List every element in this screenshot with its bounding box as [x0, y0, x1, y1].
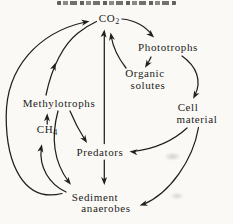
arrowhead: [80, 135, 89, 145]
node-predators: Predators: [77, 146, 124, 158]
arrow-cell-material-to-predators: [129, 128, 187, 155]
arrow-methylotrophs-to-co2: [46, 22, 97, 96]
node-organic-solutes-line2: solutes: [131, 79, 166, 91]
node-cell-material-line2: material: [177, 113, 218, 125]
arrow-methylotrophs-to-predators: [70, 111, 90, 145]
co2-subscript: 2: [115, 17, 119, 26]
arrowhead: [81, 18, 90, 25]
node-sediment-anaerobes-line2: anaerobes: [81, 202, 130, 214]
arrow-sediment-anaerobes-to-ch4: [37, 144, 66, 192]
arrow-cell-material-to-sediment-anaerobes: [139, 128, 199, 209]
arrow-co2-to-phototrophs: [122, 19, 156, 40]
ch4-subscript: 4: [53, 128, 57, 137]
scanned-diagram-page: CO2 Phototrophs Organic solutes Cell mat…: [0, 0, 233, 224]
node-ch4: CH4: [37, 123, 57, 139]
arrowhead: [50, 61, 59, 71]
arrowhead: [190, 90, 199, 100]
node-organic-solutes-line1: Organic: [125, 67, 164, 79]
arrowhead: [129, 149, 137, 156]
arrow-organic-solutes-to-co2: [108, 32, 126, 68]
arrow-phototrophs-to-cell-material: [182, 56, 200, 100]
arrowhead: [139, 200, 148, 208]
node-cell-material-line1: Cell: [178, 101, 199, 113]
node-phototrophs: Phototrophs: [138, 41, 198, 53]
arrow-predators-to-co2: [101, 29, 108, 143]
arrowhead: [146, 30, 156, 40]
arrowhead: [64, 177, 74, 187]
node-co2: CO2: [99, 12, 119, 28]
node-methylotrophs: Methylotrophs: [23, 97, 96, 109]
arrow-predators-to-sediment-anaerobes: [101, 160, 107, 185]
